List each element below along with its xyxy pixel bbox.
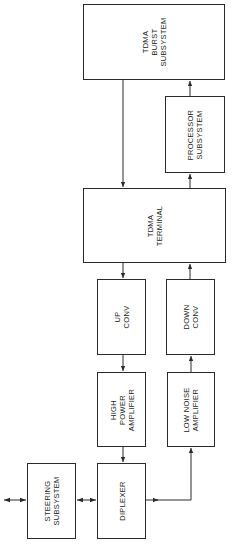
block-processor-subsystem: PROCESSOR SUBSYSTEM xyxy=(165,96,225,173)
block-high-power-amplifier: HIGH POWER AMPLIFIER xyxy=(97,372,146,447)
block-label: LOW NOISE AMPLIFIER xyxy=(182,387,200,432)
block-label: STEERING SUBSYSTEM xyxy=(43,477,61,526)
block-label: PROCESSOR SUBSYSTEM xyxy=(186,109,204,160)
block-label: TDMA TERMINAL xyxy=(146,205,164,245)
block-down-conv: DOWN CONV xyxy=(166,279,215,355)
block-label: DOWN CONV xyxy=(182,305,200,330)
block-diplexer: DIPLEXER xyxy=(97,463,146,539)
block-steering-subsystem: STEERING SUBSYSTEM xyxy=(27,463,76,539)
block-tdma-burst-subsystem: TDMA BURST SUBSYSTEM xyxy=(83,4,225,80)
block-up-conv: UP CONV xyxy=(97,279,146,355)
block-label: UP CONV xyxy=(113,306,131,329)
block-tdma-terminal: TDMA TERMINAL xyxy=(83,188,226,263)
block-low-noise-amplifier: LOW NOISE AMPLIFIER xyxy=(167,372,215,447)
block-label: DIPLEXER xyxy=(117,481,126,521)
wire-diplexer-to-lna xyxy=(156,448,191,500)
block-label: TDMA BURST SUBSYSTEM xyxy=(141,18,168,67)
block-label: HIGH POWER AMPLIFIER xyxy=(108,388,135,430)
